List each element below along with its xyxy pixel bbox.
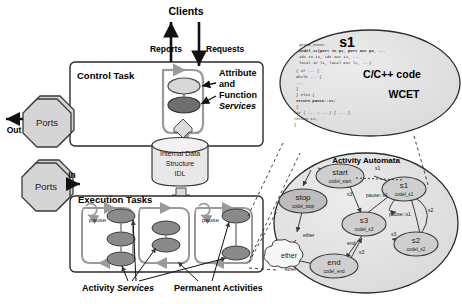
control-task-label: Control Task (77, 70, 135, 81)
node-s1-name: s1 (400, 181, 409, 190)
svg-text:while ... {: while ... { (296, 75, 322, 79)
cpp-code-label: C/C++ code (363, 68, 421, 80)
node-s2-codel: codel_s2 (407, 247, 426, 252)
clients-label: Clients (168, 5, 203, 17)
automata-node-s1: s1 codel_s1 (382, 177, 426, 201)
svg-text:} else {: } else { (296, 93, 315, 97)
node-s2-name: s2 (412, 236, 421, 245)
svg-text:local in l1, local out l2, ...: local in l1, local out l2, ...) (299, 61, 371, 65)
svg-text:return pause::s1;: return pause::s1; (296, 99, 336, 103)
permanent-activity-ellipse (222, 246, 250, 260)
node-end-codel: codel_end (323, 269, 345, 274)
out-label: Out (7, 125, 22, 135)
svg-text:}: } (294, 123, 296, 127)
svg-text:{ if ... {: { if ... { (296, 69, 320, 73)
node-stop-name: stop (295, 193, 311, 202)
and-label: and (219, 79, 235, 89)
node-s1-codel: codel_s1 (395, 192, 414, 197)
figure-canvas: Control Task Clients Reports Requests At… (0, 0, 462, 304)
ports-out: Ports Out (6, 96, 74, 147)
codel-ellipse: s1 genom_event codel_s1(port in p1, port… (280, 30, 460, 136)
idl-line-1: Internal Data (160, 150, 200, 157)
activity-service-ellipse (107, 232, 135, 246)
node-start-name: start (332, 168, 348, 177)
ether-label: ether (281, 252, 298, 259)
automata-node-s2: s2 codel_s2 (394, 232, 438, 256)
services-label: Services (219, 101, 256, 111)
permanent-activities-label: Permanent Activities (174, 283, 263, 293)
ether-node: ether (264, 239, 303, 268)
edge-label-ether-2: ether (285, 266, 297, 272)
wcet-label: WCET (389, 88, 420, 100)
svg-text:codel_s1(port in p1, port out: codel_s1(port in p1, port out p2, ... (299, 49, 385, 53)
idl-line-3: IDL (175, 170, 186, 177)
activity-service-ellipse (107, 209, 135, 223)
edge-label-s3a: s3 (347, 191, 353, 197)
svg-text:ids in i1, ids out i2, ...: ids in i1, ids out i2, ... (299, 55, 360, 59)
node-stop-codel: codel_stop (292, 204, 315, 209)
automata-node-end: end codel_end (310, 254, 358, 278)
attribute-label: Attribute (219, 68, 257, 78)
architecture-diagram: Control Task Clients Reports Requests At… (0, 0, 462, 304)
codel-state-name: s1 (339, 34, 355, 50)
automata-node-stop: stop codel_stop (279, 189, 327, 213)
activity-service-ellipse (107, 252, 135, 266)
edge-label-pause-1: pause::s1 (366, 192, 388, 198)
reports-label: Reports (150, 44, 182, 54)
in-label: In (68, 170, 76, 180)
svg-text:}: } (296, 105, 298, 109)
edge-label-s3b: s3 (391, 231, 397, 237)
node-s3-codel: codel_s3 (355, 227, 374, 232)
function-label: Function (219, 90, 257, 100)
ports-in-label: Ports (35, 181, 57, 192)
function-service-ellipse (168, 97, 200, 113)
edge-label-pause-2: pause::s1 (389, 211, 411, 217)
node-end-name: end (327, 258, 340, 267)
ports-out-label: Ports (36, 117, 58, 128)
svg-text:for ( ... ; ...) { ... }: for ( ... ; ...) { ... } (294, 111, 350, 115)
svg-text:return s2;: return s2; (294, 117, 317, 121)
edge-label-s1: s1 (375, 165, 381, 171)
attribute-service-ellipse (168, 78, 200, 94)
svg-text:}: } (296, 87, 298, 91)
activity-service-ellipse (222, 209, 250, 223)
edge-label-s3c: s3 (359, 249, 365, 255)
edge-label-end: end (347, 240, 356, 246)
node-start-codel: codel_start (329, 179, 352, 184)
node-s3-name: s3 (360, 216, 369, 225)
svg-text:genom_event: genom_event (299, 43, 325, 47)
activity-service-ellipse (152, 238, 180, 252)
edge-label-s2: s2 (428, 207, 434, 213)
pause-label-1: pause (89, 216, 106, 223)
edge-label-ether-1: ether (303, 232, 315, 238)
activity-services-label: Activity Services (82, 283, 154, 293)
automata-node-s3: s3 codel_s3 (342, 212, 386, 236)
pause-label-3: pause (202, 216, 219, 223)
requests-label: Requests (206, 44, 245, 54)
svg-text:...: ... (296, 81, 303, 85)
activity-automata-ellipse: Activity Automata ether start (264, 153, 458, 293)
idl-datastore: Internal Data Structure IDL (152, 138, 208, 187)
automata-node-start: start codel_start (316, 164, 364, 188)
activity-service-ellipse (152, 221, 180, 235)
idl-line-2: Structure (166, 160, 195, 167)
